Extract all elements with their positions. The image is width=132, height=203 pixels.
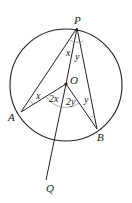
angle-label-OPB: y bbox=[74, 51, 80, 62]
arc-angle-P bbox=[70, 40, 84, 42]
angle-label-QOB: 2y bbox=[66, 96, 76, 107]
arc-angle-B bbox=[89, 116, 94, 118]
angle-label-PBO: y bbox=[83, 94, 89, 105]
center-point bbox=[64, 82, 67, 85]
label-A: A bbox=[7, 111, 15, 123]
arc-angle-A bbox=[30, 100, 34, 106]
angle-label-AOQ: 2x bbox=[49, 93, 59, 104]
segment-OA bbox=[21, 84, 66, 112]
label-Q: Q bbox=[46, 182, 54, 194]
angle-label-APO: x bbox=[65, 47, 71, 58]
label-B: B bbox=[97, 131, 104, 143]
label-P: P bbox=[73, 14, 81, 26]
angle-label-PAO: x bbox=[35, 90, 41, 101]
geometry-diagram: P O A B Q x y x 2x 2y y bbox=[0, 0, 132, 203]
label-O: O bbox=[70, 74, 78, 86]
